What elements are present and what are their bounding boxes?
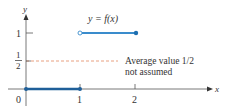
x-tick-label-0: 0 [16,94,21,105]
y-tick-label-1: 1 [16,28,21,39]
y-axis-label: y [22,4,27,14]
closed-point-1-0 [78,87,82,91]
curve-label: y = f(x) [87,13,119,25]
x-axis-label: x [214,84,219,94]
closed-point-0-0 [24,87,28,91]
closed-point-2-1 [134,31,138,35]
chart: y x 0 1 2 1 1 2 y = f(x) Average value 1… [0,0,231,109]
x-tick-label-2: 2 [132,94,137,105]
y-axis-arrow-icon [24,14,29,20]
x-axis-arrow-icon [207,87,213,92]
annotation-line-2: not assumed [125,67,172,77]
x-tick-label-1: 1 [77,94,82,105]
open-point-1-1 [78,31,82,35]
annotation-line-1: Average value 1/2 [125,56,194,66]
svg-text:1: 1 [16,50,21,60]
y-tick-label-half: 1 2 [15,50,22,71]
svg-text:2: 2 [16,61,21,71]
